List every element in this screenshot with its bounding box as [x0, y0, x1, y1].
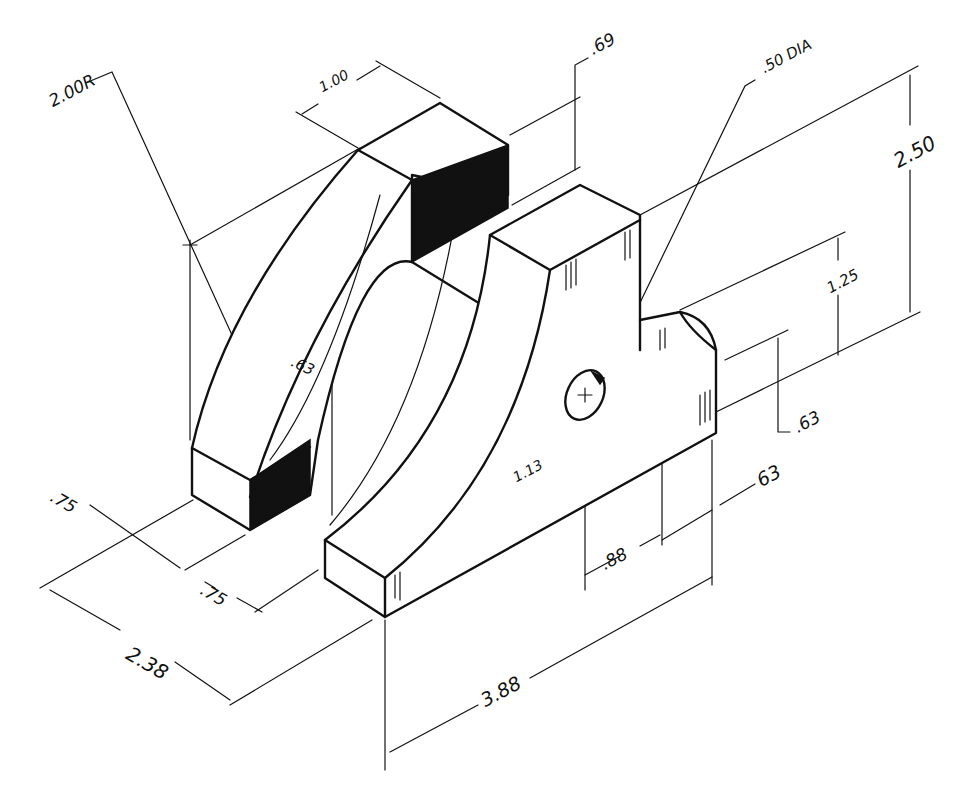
isometric-drawing: [0, 0, 961, 800]
object-outline: [192, 103, 716, 617]
